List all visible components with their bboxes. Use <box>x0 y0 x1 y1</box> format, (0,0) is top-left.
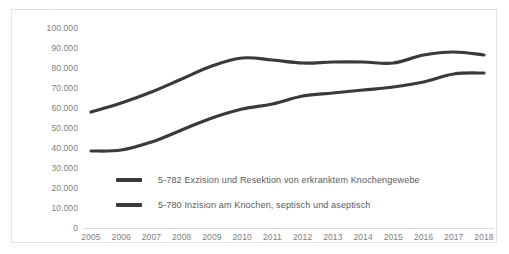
y-tick-label: 10.000 <box>51 203 78 213</box>
x-axis: 2005200620072008200920102011201220132014… <box>83 232 494 246</box>
y-tick-label: 60.000 <box>51 103 78 113</box>
y-tick-label: 80.000 <box>51 63 78 73</box>
legend-label: 5-780 Inzision am Knochen, septisch und … <box>158 200 370 210</box>
series-line-2 <box>91 73 484 151</box>
y-axis: 010.00020.00030.00040.00050.00060.00070.… <box>12 28 78 228</box>
legend-label: 5-782 Exzision und Resektion von erkrank… <box>158 175 420 185</box>
x-tick-label: 2010 <box>232 232 251 242</box>
x-axis-line <box>83 228 494 229</box>
x-tick-label: 2014 <box>353 232 372 242</box>
y-tick-label: 30.000 <box>51 163 78 173</box>
y-tick-label: 20.000 <box>51 183 78 193</box>
y-tick-label: 100.000 <box>47 23 78 33</box>
x-tick-label: 2017 <box>444 232 463 242</box>
x-tick-label: 2007 <box>142 232 161 242</box>
x-tick-label: 2011 <box>263 232 282 242</box>
x-tick-label: 2012 <box>293 232 312 242</box>
x-tick-label: 2018 <box>474 232 493 242</box>
x-tick-label: 2013 <box>323 232 342 242</box>
y-tick-label: 50.000 <box>51 123 78 133</box>
y-tick-label: 90.000 <box>51 43 78 53</box>
y-tick-label: 0 <box>73 223 78 233</box>
legend-swatch-icon <box>116 203 142 207</box>
x-tick-label: 2015 <box>384 232 403 242</box>
x-tick-label: 2005 <box>81 232 100 242</box>
y-tick-label: 40.000 <box>51 143 78 153</box>
legend-item-1[interactable]: 5-782 Exzision und Resektion von erkrank… <box>116 167 466 192</box>
x-tick-label: 2016 <box>414 232 433 242</box>
chart-frame: 010.00020.00030.00040.00050.00060.00070.… <box>11 9 497 243</box>
y-tick-label: 70.000 <box>51 83 78 93</box>
x-tick-label: 2006 <box>112 232 131 242</box>
x-tick-label: 2008 <box>172 232 191 242</box>
legend-swatch-icon <box>116 178 142 182</box>
x-tick-label: 2009 <box>202 232 221 242</box>
chart-legend: 5-782 Exzision und Resektion von erkrank… <box>116 167 466 217</box>
legend-item-2[interactable]: 5-780 Inzision am Knochen, septisch und … <box>116 192 466 217</box>
